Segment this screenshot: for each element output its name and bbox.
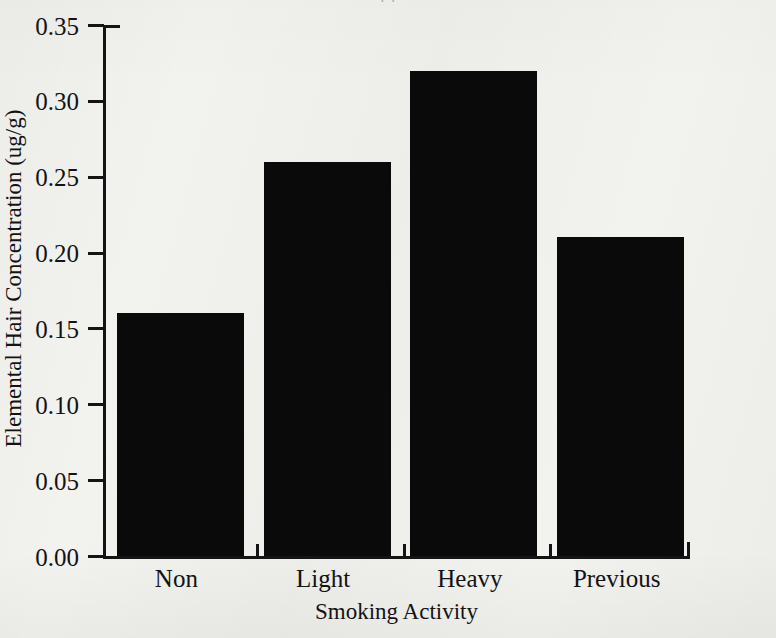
y-axis-tick: 0.20 (88, 252, 104, 255)
y-axis-tick-label: 0.15 (35, 316, 79, 341)
x-axis-category-label: Non (103, 566, 250, 591)
bar (117, 313, 244, 556)
y-axis-tick-label: 0.30 (35, 89, 79, 114)
y-axis-tick: 0.05 (88, 479, 104, 482)
cropped-title-remnant: ( ) (0, 0, 776, 2)
y-axis-top-cap (103, 25, 120, 28)
y-axis-tick-label: 0.05 (35, 468, 79, 493)
x-axis-tick (256, 544, 259, 559)
y-axis-tick-label: 0.25 (35, 165, 79, 190)
x-axis-category-label: Previous (543, 566, 690, 591)
x-axis-tick (403, 544, 406, 559)
x-axis-line (103, 556, 690, 559)
y-axis-tick: 0.25 (88, 176, 104, 179)
y-axis-tick: 0.15 (88, 327, 104, 330)
y-axis-tick: 0.35 (88, 24, 104, 27)
y-axis-title: Elemental Hair Concentration (ug/g) (2, 19, 25, 539)
x-axis-right-cap (687, 542, 690, 559)
plot-area: 0.000.050.100.150.200.250.300.35 (103, 25, 690, 559)
bar (264, 162, 391, 556)
y-axis-tick-label: 0.35 (35, 13, 79, 38)
bar (410, 71, 537, 556)
y-axis-tick-label: 0.00 (35, 544, 79, 569)
y-axis-tick: 0.00 (88, 555, 104, 558)
x-axis-tick (549, 544, 552, 559)
x-axis-category-label: Light (250, 566, 397, 591)
bar-chart-figure: ( ) 0.000.050.100.150.200.250.300.35 Non… (0, 0, 776, 638)
x-axis-category-label: Heavy (397, 566, 544, 591)
bar (557, 237, 684, 556)
y-axis-tick: 0.30 (88, 100, 104, 103)
y-axis-tick-label: 0.10 (35, 392, 79, 417)
x-axis-title: Smoking Activity (103, 600, 690, 623)
y-axis-tick: 0.10 (88, 403, 104, 406)
y-axis-tick-label: 0.20 (35, 241, 79, 266)
